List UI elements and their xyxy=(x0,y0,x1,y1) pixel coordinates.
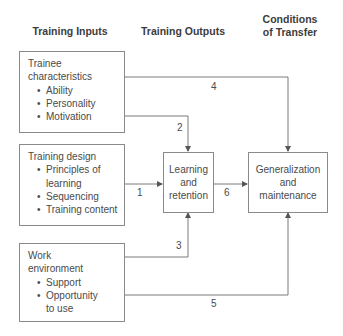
learning-retention-box: Learning and retention xyxy=(163,152,214,213)
arrow-5 xyxy=(124,213,288,295)
arrow-label-6: 6 xyxy=(224,187,230,198)
design-item-sequencing: Sequencing xyxy=(37,190,124,203)
work-environment-box: Work environment Support Opportunity to … xyxy=(19,243,125,322)
design-item-learning-text: learning xyxy=(46,178,82,189)
learning-line3: retention xyxy=(164,189,213,202)
work-title-line2: environment xyxy=(28,262,124,275)
arrow-label-1: 1 xyxy=(137,187,143,198)
design-item-content: Training content xyxy=(37,203,124,216)
work-item-opportunity: Opportunity xyxy=(37,289,124,302)
work-item-to-use-text: to use xyxy=(46,303,73,314)
trainee-characteristics-box: Trainee characteristics Ability Personal… xyxy=(19,51,125,133)
generalization-line2: and xyxy=(249,176,327,189)
trainee-title-line1: Trainee xyxy=(28,57,124,70)
design-item-principles: Principles of xyxy=(37,163,124,176)
generalization-line1: Generalization xyxy=(249,163,327,176)
work-item-to-use-cont: to use xyxy=(37,302,124,315)
trainee-item-personality: Personality xyxy=(37,97,124,110)
trainee-item-ability: Ability xyxy=(37,84,124,97)
learning-line1: Learning xyxy=(164,163,213,176)
arrow-label-5: 5 xyxy=(211,298,217,309)
arrow-label-3: 3 xyxy=(176,240,182,251)
design-title: Training design xyxy=(28,150,124,163)
work-items: Support Opportunity to use xyxy=(28,276,124,316)
learning-line2: and xyxy=(164,176,213,189)
training-design-box: Training design Principles of learning S… xyxy=(19,144,125,226)
generalization-maintenance-box: Generalization and maintenance xyxy=(248,152,328,213)
generalization-line3: maintenance xyxy=(249,189,327,202)
design-items: Principles of learning Sequencing Traini… xyxy=(28,163,124,216)
arrow-label-4: 4 xyxy=(211,81,217,92)
trainee-title-line2: characteristics xyxy=(28,70,124,83)
trainee-item-motivation: Motivation xyxy=(37,110,124,123)
work-title-line1: Work xyxy=(28,249,124,262)
arrow-label-2: 2 xyxy=(177,122,183,133)
work-item-support: Support xyxy=(37,276,124,289)
design-item-learning-cont: learning xyxy=(37,177,124,190)
arrow-4 xyxy=(124,77,288,151)
trainee-items: Ability Personality Motivation xyxy=(28,84,124,124)
